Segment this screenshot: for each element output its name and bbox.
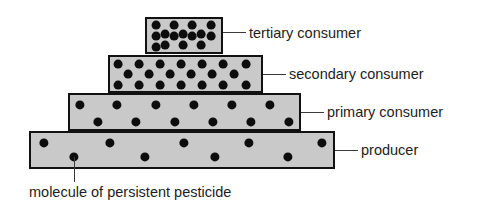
pesticide-molecule-dot (170, 32, 179, 41)
pesticide-molecule-dot (179, 41, 188, 50)
pesticide-molecule-dot (198, 60, 207, 69)
pesticide-molecule-dot (179, 30, 188, 39)
pesticide-molecule-dot (152, 43, 161, 52)
pesticide-molecule-dot (135, 60, 144, 69)
pesticide-molecule-dot (145, 70, 154, 79)
level-label-tertiary-consumer: tertiary consumer (249, 26, 361, 41)
level-box-primary-consumer (68, 93, 301, 131)
level-label-producer: producer (361, 143, 418, 158)
pesticide-molecule-dot (187, 70, 196, 79)
leader-line-caption (74, 157, 75, 182)
pesticide-molecule-dot (207, 32, 216, 41)
leader-line-secondary-consumer (263, 74, 286, 75)
pesticide-molecule-dot (197, 30, 206, 39)
biomagnification-pyramid-diagram: producer primary consumer secondary cons… (0, 0, 501, 207)
pesticide-molecule-dot (152, 32, 161, 41)
pesticide-molecule-dot (230, 70, 239, 79)
pesticide-molecule-dot (170, 21, 179, 30)
leader-line-primary-consumer (301, 112, 324, 113)
pesticide-molecule-dot (219, 81, 228, 90)
level-label-primary-consumer: primary consumer (327, 105, 443, 120)
pesticide-molecule-dot (161, 30, 170, 39)
pesticide-molecule-dot (207, 21, 216, 30)
pesticide-molecule-dot (124, 70, 133, 79)
leader-line-producer (335, 150, 358, 151)
pesticide-molecule-dot (135, 81, 144, 90)
pesticide-molecule-dot (242, 81, 251, 90)
leader-line-tertiary-consumer (223, 32, 246, 33)
pesticide-molecule-dot (114, 60, 123, 69)
pesticide-molecule-dot (208, 70, 217, 79)
pesticide-molecule-dot (177, 60, 186, 69)
pesticide-molecule-dot (161, 41, 170, 50)
pesticide-molecule-dot (177, 81, 186, 90)
pesticide-molecule-dot (166, 70, 175, 79)
pesticide-molecule-dot (242, 60, 251, 69)
caption-pesticide-molecule: molecule of persistent pesticide (29, 185, 231, 200)
pesticide-molecule-dot (188, 21, 197, 30)
pesticide-molecule-dot (219, 60, 228, 69)
pesticide-molecule-dot (156, 60, 165, 69)
pesticide-molecule-dot (114, 81, 123, 90)
pesticide-molecule-dot (156, 81, 165, 90)
level-label-secondary-consumer: secondary consumer (289, 67, 424, 82)
pesticide-molecule-dot (188, 32, 197, 41)
pesticide-molecule-dot (197, 41, 206, 50)
pesticide-molecule-dot (198, 81, 207, 90)
pesticide-molecule-dot (152, 21, 161, 30)
